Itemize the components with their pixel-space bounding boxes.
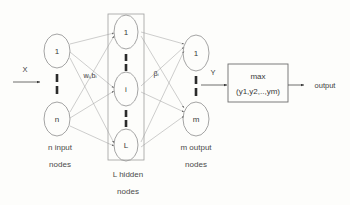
input-node-n[interactable]: n — [44, 102, 70, 136]
output-layer-group: 1 m — [183, 35, 209, 136]
hidden-node-L[interactable]: L — [114, 129, 138, 161]
weight-label-hidden-output: βᵢ — [153, 70, 158, 78]
input-layer-group: 1 n — [44, 34, 70, 136]
output-node-m[interactable]: m — [183, 102, 209, 136]
input-node-1[interactable]: 1 — [44, 34, 70, 68]
output-layer-caption: m output nodes — [180, 143, 212, 169]
edges-input-to-hidden — [70, 33, 114, 146]
hidden-caption-line2: nodes — [117, 187, 139, 196]
input-caption-line1: n input — [48, 143, 73, 152]
output-caption-line2: nodes — [185, 160, 207, 169]
network-svg: 1 n 1 i — [0, 0, 350, 205]
output-node-1[interactable]: 1 — [183, 35, 209, 71]
final-output-group: output — [288, 81, 336, 90]
input-signal-label: X — [22, 65, 27, 74]
neural-network-diagram: 1 n 1 i — [0, 0, 350, 205]
hidden-layer-group: 1 i L — [114, 15, 138, 161]
max-block-line2: (y1,y2,..,ym) — [236, 87, 280, 96]
hidden-node-i[interactable]: i — [114, 72, 138, 106]
weight-label-input-hidden: wᵢ,bᵢ — [82, 72, 96, 79]
hidden-node-L-label: L — [124, 141, 129, 150]
hidden-layer-caption: L hidden nodes — [113, 170, 143, 196]
output-signal-label: Y — [210, 68, 215, 77]
input-signal-group: X — [13, 65, 40, 82]
output-caption-line1: m output — [180, 143, 212, 152]
hidden-node-i-label: i — [125, 85, 127, 94]
hidden-node-1-label: 1 — [124, 28, 129, 37]
max-block-line1: max — [250, 72, 265, 81]
output-node-1-label: 1 — [194, 49, 199, 58]
output-node-m-label: m — [193, 115, 200, 124]
max-decision-block[interactable]: max (y1,y2,..,ym) — [228, 64, 288, 102]
input-caption-line2: nodes — [49, 160, 71, 169]
input-node-n-label: n — [55, 115, 59, 124]
input-node-1-label: 1 — [55, 47, 60, 56]
output-signal-group: Y — [201, 68, 227, 85]
edges-hidden-to-output — [141, 32, 184, 147]
hidden-caption-line1: L hidden — [113, 170, 143, 179]
hidden-node-1[interactable]: 1 — [114, 15, 138, 49]
input-layer-caption: n input nodes — [48, 143, 73, 169]
final-output-label: output — [315, 81, 337, 90]
